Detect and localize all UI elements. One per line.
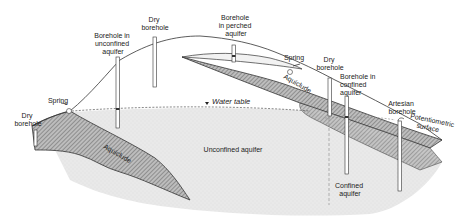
borehole-dry-left	[34, 130, 37, 146]
borehole-confined	[345, 96, 349, 174]
spring-left-icon	[67, 109, 72, 114]
water-table-marker-icon	[205, 102, 209, 105]
label-dry-borehole-left: Dry borehole	[14, 112, 41, 127]
label-borehole-unconfined: Borehole in unconfined aquifer	[94, 32, 131, 56]
label-dry-borehole-right: Dry borehole	[316, 56, 343, 71]
water-level-confined	[345, 116, 349, 118]
label-borehole-perched: Borehole in perched aquifer	[219, 14, 254, 38]
label-spring-right: Spring	[284, 54, 304, 62]
water-level-perched	[232, 55, 236, 57]
borehole-dry-top	[153, 37, 157, 87]
label-borehole-confined: Borehole in confined aquifer	[340, 73, 377, 97]
water-level-unconfined	[116, 108, 120, 110]
label-unconfined-aquifer: Unconfined aquifer	[204, 146, 263, 154]
label-water-table: Water table	[212, 97, 250, 106]
spring-right-arrow	[293, 64, 300, 66]
borehole-unconfined	[116, 57, 120, 128]
borehole-artesian	[398, 121, 402, 191]
borehole-perched	[232, 45, 236, 62]
borehole-dry-right	[328, 78, 332, 116]
label-dry-borehole-top: Dry borehole	[141, 16, 168, 31]
artesian-flow-arrow	[398, 118, 404, 121]
groundwater-diagram: Dry borehole Spring Borehole in unconfin…	[0, 0, 474, 220]
label-confined-aquifer: Confined aquifer	[335, 182, 365, 198]
label-spring-left: Spring	[48, 97, 68, 105]
